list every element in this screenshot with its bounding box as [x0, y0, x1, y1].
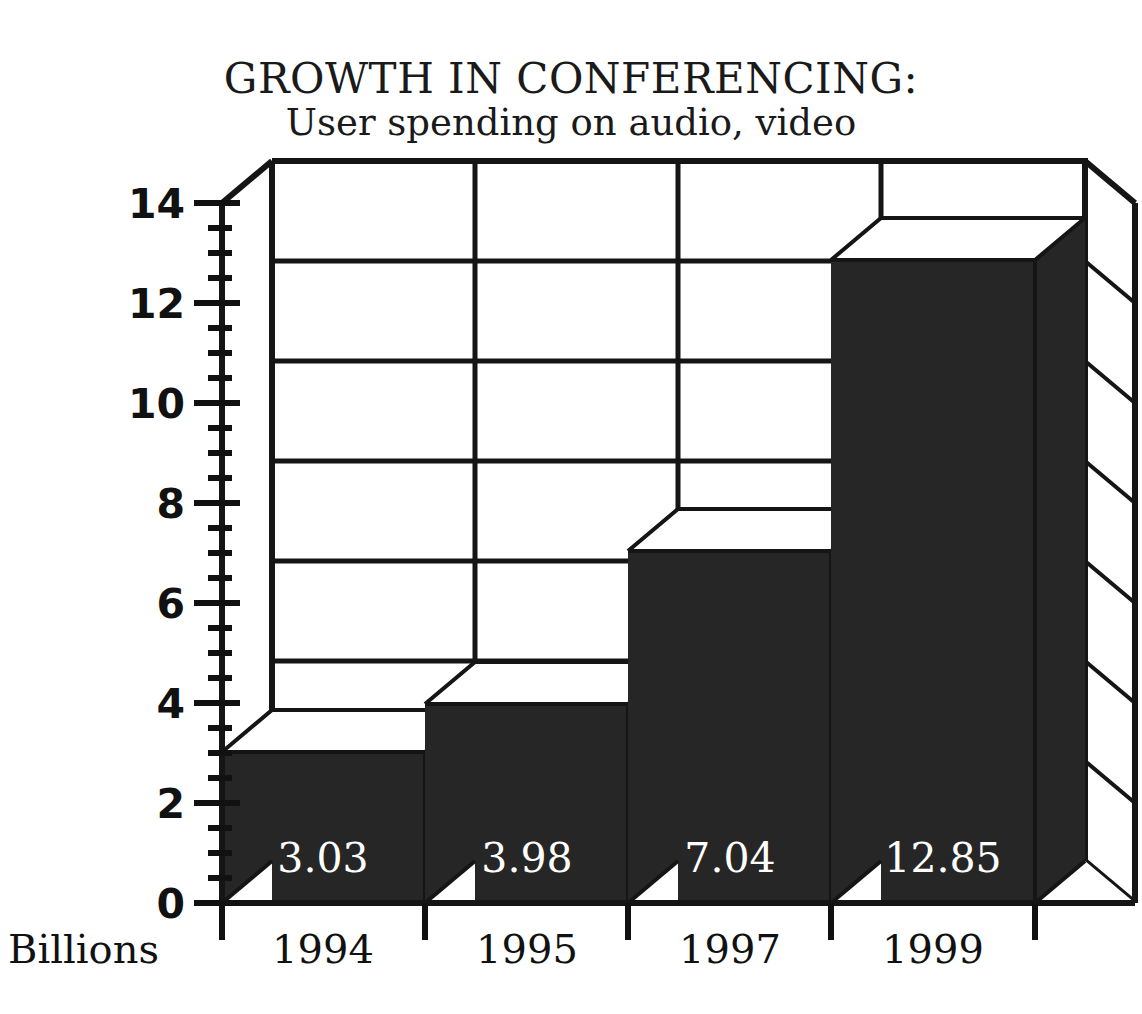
x-category-label-1999: 1999 — [882, 926, 984, 972]
bar-value-label-1995: 3.98 — [481, 834, 572, 882]
y-tick-label-6: 6 — [156, 580, 185, 628]
y-tick-label-2: 2 — [156, 780, 185, 828]
chart-title: GROWTH IN CONFERENCING: — [224, 54, 918, 103]
bar-value-label-1994: 3.03 — [277, 834, 368, 882]
y-tick-label-4: 4 — [156, 680, 185, 728]
x-axis-unit-label: Billions — [8, 926, 159, 972]
y-axis-minor-ticks — [208, 228, 232, 878]
right-side-wall — [1085, 161, 1135, 903]
bar-chart-svg: GROWTH IN CONFERENCING: User spending on… — [0, 0, 1142, 1014]
x-category-label-1995: 1995 — [476, 926, 578, 972]
y-tick-label-8: 8 — [156, 480, 185, 528]
bar-value-label-1999: 12.85 — [884, 834, 1001, 882]
bar-front-face-1999 — [831, 260, 1035, 903]
bar-side-face-1999 — [1035, 218, 1085, 903]
chart-subtitle: User spending on audio, video — [286, 101, 856, 144]
bar-value-label-1997: 7.04 — [684, 834, 775, 882]
bar-group-1999 — [831, 218, 1085, 903]
y-tick-label-12: 12 — [128, 280, 185, 328]
y-tick-label-14: 14 — [128, 180, 185, 228]
y-tick-label-10: 10 — [128, 380, 185, 428]
y-tick-label-0: 0 — [156, 880, 185, 928]
chart-figure: GROWTH IN CONFERENCING: User spending on… — [0, 0, 1142, 1014]
x-category-label-1997: 1997 — [679, 926, 781, 972]
x-category-label-1994: 1994 — [272, 926, 374, 972]
